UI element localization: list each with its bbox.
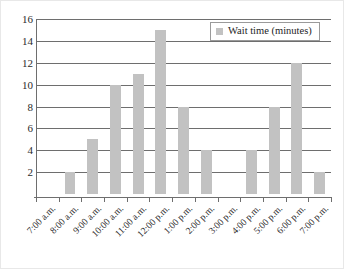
x-axis-tick — [149, 197, 150, 202]
bar-slot — [172, 19, 195, 194]
bar-slot — [149, 19, 172, 194]
bar — [87, 139, 98, 194]
y-axis-tick-label: 12 — [3, 57, 33, 68]
x-axis-tick — [308, 197, 309, 202]
x-axis-tick — [286, 197, 287, 202]
x-axis-tick — [331, 197, 332, 202]
bar — [155, 30, 166, 194]
chart-legend: Wait time (minutes) — [210, 22, 320, 41]
bar — [314, 172, 325, 194]
x-axis-tick — [81, 197, 82, 202]
bar-slot — [36, 19, 59, 194]
bar — [178, 107, 189, 195]
x-axis-tick — [36, 197, 37, 202]
x-axis-tick — [240, 197, 241, 202]
x-axis-tick — [59, 197, 60, 202]
bar — [65, 172, 76, 194]
bar-slot — [286, 19, 309, 194]
y-axis-tick-label: 10 — [3, 79, 33, 90]
bar-slot — [59, 19, 82, 194]
x-axis-tick — [263, 197, 264, 202]
bar-slot — [240, 19, 263, 194]
bar-slot — [81, 19, 104, 194]
bar-slot — [218, 19, 241, 194]
x-axis-tick — [104, 197, 105, 202]
x-axis-tick — [172, 197, 173, 202]
bar — [201, 150, 212, 194]
bar-slot — [127, 19, 150, 194]
y-axis-tick-label: 6 — [3, 123, 33, 134]
bars-layer — [36, 19, 331, 194]
y-axis-tick-label: 2 — [3, 167, 33, 178]
wait-time-bar-chart: 246810121416 7:00 a.m.8:00 a.m.9:00 a.m.… — [0, 0, 344, 269]
bar — [246, 150, 257, 194]
bar — [110, 85, 121, 194]
x-axis-tick — [127, 197, 128, 202]
bar-slot — [195, 19, 218, 194]
bar-slot — [308, 19, 331, 194]
bar — [291, 63, 302, 194]
bar — [269, 107, 280, 195]
x-axis-tick — [218, 197, 219, 202]
y-axis-line — [36, 19, 37, 197]
bar-slot — [263, 19, 286, 194]
y-axis-tick-label: 14 — [3, 35, 33, 46]
y-axis-tick-label: 4 — [3, 145, 33, 156]
legend-swatch-icon — [216, 28, 223, 35]
x-axis-tick — [195, 197, 196, 202]
bar-slot — [104, 19, 127, 194]
bar — [133, 74, 144, 194]
x-axis-tick-labels: 7:00 a.m.8:00 a.m.9:00 a.m.10:00 a.m.11:… — [36, 204, 331, 266]
y-axis-tick-label: 8 — [3, 101, 33, 112]
x-axis-ticks — [36, 197, 331, 202]
plot-area — [36, 19, 331, 194]
legend-label: Wait time (minutes) — [228, 26, 312, 37]
y-axis-tick-label: 16 — [3, 14, 33, 25]
